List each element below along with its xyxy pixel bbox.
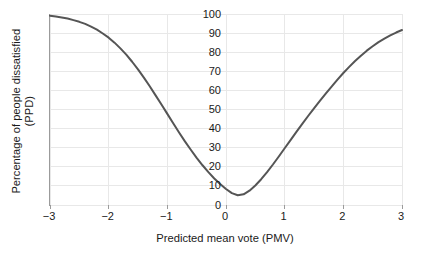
chart-figure: Percentage of people dissatisfied (PPD) …	[0, 0, 421, 260]
y-tick-label: 20	[181, 161, 221, 172]
x-axis-title: Predicted mean vote (PMV)	[49, 232, 401, 244]
y-tick-label: 80	[181, 47, 221, 58]
y-tick-label: 40	[181, 123, 221, 134]
x-axis-tick-marks	[50, 205, 402, 209]
x-tick-label: 0	[205, 211, 245, 222]
x-tick-label: −2	[88, 211, 128, 222]
y-axis-title-text: Percentage of people dissatisfied (PPD)	[10, 29, 36, 194]
x-tick-label: 3	[381, 211, 421, 222]
y-tick-label: 10	[181, 180, 221, 191]
y-axis-title-line2: (PPD)	[23, 29, 36, 194]
y-tick-label: 0	[181, 200, 221, 211]
y-tick-label: 100	[181, 9, 221, 20]
y-axis-title: Percentage of people dissatisfied (PPD)	[0, 0, 46, 222]
x-tick-label: −1	[146, 211, 186, 222]
y-tick-label: 30	[181, 142, 221, 153]
y-tick-label: 50	[181, 104, 221, 115]
y-tick-label: 90	[181, 28, 221, 39]
y-tick-label: 70	[181, 66, 221, 77]
x-tick-label: 1	[264, 211, 304, 222]
x-tick-label: 2	[322, 211, 362, 222]
y-tick-label: 60	[181, 85, 221, 96]
x-tick-label: −3	[29, 211, 69, 222]
plot-svg	[50, 14, 402, 205]
y-axis-title-line1: Percentage of people dissatisfied	[10, 29, 23, 194]
plot-area	[49, 14, 403, 206]
